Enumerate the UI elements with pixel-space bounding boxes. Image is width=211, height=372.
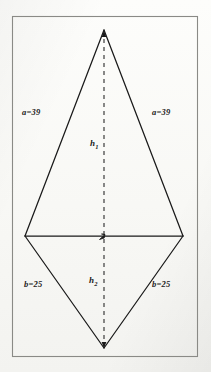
- center-intersection-marker: [100, 234, 106, 240]
- diagram-canvas: [0, 0, 211, 372]
- upper-right-side: [104, 30, 183, 236]
- label-side-upper-right: a=39: [152, 108, 170, 117]
- label-height-upper-subscript: 1: [95, 143, 98, 150]
- label-side-upper-left: a=39: [22, 108, 40, 117]
- label-side-lower-left: b=25: [24, 280, 42, 289]
- geometry-figure-container: a=39 a=39 b=25 b=25 h1 h2: [0, 0, 211, 372]
- label-height-lower: h2: [89, 276, 98, 287]
- label-height-lower-subscript: 2: [94, 280, 97, 287]
- label-height-upper: h1: [90, 139, 99, 150]
- lower-right-side: [104, 236, 183, 348]
- label-side-lower-right: b=25: [152, 280, 170, 289]
- figure-border: [13, 17, 198, 357]
- lower-left-side: [25, 236, 104, 348]
- upper-left-side: [25, 30, 104, 236]
